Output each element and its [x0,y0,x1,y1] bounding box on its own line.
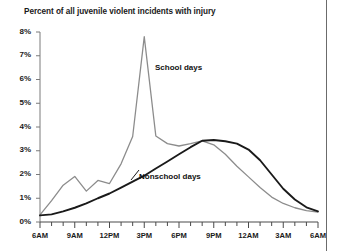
series-label-school-days: School days [155,63,202,72]
y-axis-tick-label: 8% [7,27,31,36]
y-axis-tick-label: 5% [7,98,31,107]
series-label-nonschool-days: Nonschool days [139,172,201,181]
y-axis-tick-label: 7% [7,50,31,59]
x-axis-tick-label: 6AM [298,231,337,240]
y-axis-tick-label: 0% [7,217,31,226]
chart-figure: Percent of all juvenile violent incident… [0,0,337,251]
y-axis-tick-label: 3% [7,145,31,154]
line-chart-plot [0,0,337,251]
y-axis-tick-label: 1% [7,193,31,202]
y-axis-tick-label: 4% [7,122,31,131]
figure-right-border [326,0,327,251]
y-axis-tick-label: 6% [7,74,31,83]
y-axis-tick-label: 2% [7,169,31,178]
